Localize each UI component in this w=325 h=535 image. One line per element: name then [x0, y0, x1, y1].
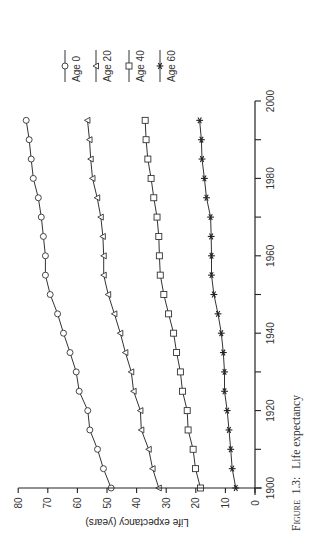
circle-marker-icon — [35, 195, 41, 201]
legend-label: Age 0 — [71, 55, 82, 82]
caption-text: Life expectancy — [290, 395, 303, 469]
plot-area — [23, 117, 239, 491]
legend-label: Age 20 — [102, 50, 113, 82]
circle-marker-icon — [38, 214, 44, 220]
circle-marker-icon — [23, 117, 29, 123]
value-tick-label: 20 — [190, 497, 201, 509]
series-line — [26, 120, 111, 488]
square-marker-icon — [151, 195, 157, 201]
year-tick-label: 2000 — [265, 89, 276, 112]
square-marker-icon — [185, 427, 191, 433]
circle-marker-icon — [42, 272, 48, 278]
square-marker-icon — [184, 408, 190, 414]
circle-marker-icon — [28, 156, 34, 162]
square-marker-icon — [145, 156, 151, 162]
value-tick-label: 30 — [161, 497, 172, 509]
series-age-0 — [23, 117, 114, 491]
caption-prefix: Figure — [290, 500, 302, 531]
year-tick-label: 1900 — [265, 476, 276, 499]
circle-marker-icon — [87, 427, 93, 433]
value-tick-label: 0 — [250, 500, 261, 506]
circle-marker-icon — [26, 137, 32, 143]
square-marker-icon — [179, 388, 185, 394]
year-tick-label: 1960 — [265, 244, 276, 267]
square-marker-icon — [177, 369, 183, 375]
circle-marker-icon — [73, 369, 79, 375]
square-marker-icon — [193, 466, 199, 472]
square-marker-icon — [166, 311, 172, 317]
square-marker-icon — [157, 272, 163, 278]
square-marker-icon — [142, 117, 148, 123]
year-tick-label: 1980 — [265, 167, 276, 190]
circle-marker-icon — [62, 63, 68, 69]
legend-item-age-20: Age 20 — [93, 50, 113, 82]
legend-label: Age 60 — [166, 50, 177, 82]
circle-marker-icon — [55, 311, 61, 317]
year-tick-label: 1920 — [265, 399, 276, 422]
series-age-40 — [142, 117, 203, 491]
figure-caption: Figure 1.3: Life expectancy — [290, 395, 303, 531]
square-marker-icon — [161, 292, 167, 298]
triangle-marker-icon — [84, 117, 90, 123]
legend: Age 0Age 20Age 40Age 60 — [62, 50, 177, 82]
circle-marker-icon — [47, 292, 53, 298]
value-tick-label: 50 — [102, 497, 113, 509]
y-axis-title: Life expectancy (years) — [85, 517, 188, 528]
square-marker-icon — [171, 330, 177, 336]
caption-number: 1.3: — [290, 477, 302, 495]
value-tick-label: 80 — [13, 497, 24, 509]
circle-marker-icon — [40, 233, 46, 239]
square-marker-icon — [156, 233, 162, 239]
value-tick-label: 60 — [72, 497, 83, 509]
square-marker-icon — [156, 253, 162, 259]
legend-label: Age 40 — [135, 50, 146, 82]
square-marker-icon — [126, 63, 132, 69]
legend-item-age-40: Age 40 — [126, 50, 146, 82]
circle-marker-icon — [60, 330, 66, 336]
circle-marker-icon — [85, 408, 91, 414]
square-marker-icon — [148, 175, 154, 181]
value-tick-label: 70 — [42, 497, 53, 509]
square-marker-icon — [174, 350, 180, 356]
circle-marker-icon — [76, 388, 82, 394]
series-age-60 — [196, 117, 239, 491]
year-tick-label: 1940 — [265, 322, 276, 345]
circle-marker-icon — [30, 175, 36, 181]
circle-marker-icon — [67, 350, 73, 356]
circle-marker-icon — [42, 253, 48, 259]
value-tick-label: 10 — [220, 497, 231, 509]
life-expectancy-chart: 0102030405060708019001920194019601980200… — [0, 0, 325, 535]
square-marker-icon — [190, 446, 196, 452]
circle-marker-icon — [100, 466, 106, 472]
circle-marker-icon — [95, 446, 101, 452]
value-tick-label: 40 — [131, 497, 142, 509]
square-marker-icon — [154, 214, 160, 220]
legend-item-age-0: Age 0 — [62, 50, 82, 82]
legend-item-age-60: Age 60 — [157, 50, 177, 82]
triangle-marker-icon — [146, 446, 152, 452]
square-marker-icon — [143, 137, 149, 143]
